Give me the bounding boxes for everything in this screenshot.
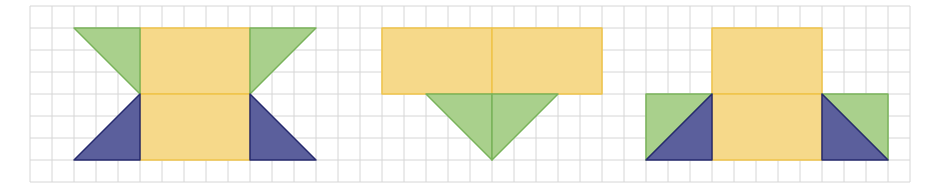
- yellow-square: [712, 28, 822, 94]
- yellow-square: [140, 28, 250, 94]
- green-triangle: [250, 28, 316, 94]
- blue-triangle: [74, 94, 140, 160]
- green-triangle: [74, 28, 140, 94]
- diagram-stage: [0, 0, 940, 196]
- yellow-square: [712, 94, 822, 160]
- green-triangle: [426, 94, 492, 160]
- figure-middle: [382, 28, 602, 160]
- yellow-square: [140, 94, 250, 160]
- yellow-square: [382, 28, 492, 94]
- yellow-square: [492, 28, 602, 94]
- figure-right: [646, 28, 888, 160]
- grid-diagram: [0, 0, 940, 196]
- green-triangle: [492, 94, 558, 160]
- blue-triangle: [250, 94, 316, 160]
